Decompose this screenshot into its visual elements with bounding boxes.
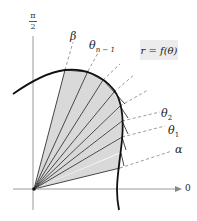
theta-n-minus-1-main: θ bbox=[89, 39, 96, 52]
alpha-label: α bbox=[175, 144, 182, 155]
beta-label: β bbox=[70, 31, 76, 42]
theta-2-main: θ bbox=[161, 107, 168, 120]
theta-1-label: θ1 bbox=[168, 125, 179, 136]
theta-1-subscript: 1 bbox=[175, 131, 179, 139]
theta-n-minus-1-subscript: n − 1 bbox=[96, 46, 115, 54]
curve-equation-text: r = f(θ) bbox=[140, 45, 177, 56]
pi-over-2-denominator: 2 bbox=[26, 23, 40, 31]
origin-point bbox=[32, 187, 36, 191]
theta-n-minus-1-label: θn − 1 bbox=[89, 40, 115, 51]
pi-over-2-label: π 2 bbox=[26, 12, 40, 31]
theta-1-main: θ bbox=[168, 124, 175, 137]
axis-arrowhead-icon bbox=[175, 186, 182, 192]
curve-equation-label: r = f(θ) bbox=[140, 40, 178, 60]
pi-over-2-numerator: π bbox=[26, 12, 40, 20]
theta-2-label: θ2 bbox=[161, 108, 172, 119]
zero-angle-label: 0 bbox=[185, 184, 191, 193]
theta-2-subscript: 2 bbox=[168, 114, 172, 122]
